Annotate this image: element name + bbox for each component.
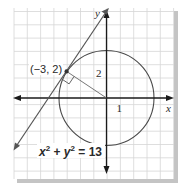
point-label: (−3, 2) bbox=[30, 63, 62, 75]
graph-svg: (−3, 2) 2 1 y x x2 + y2 = 13 bbox=[0, 0, 183, 187]
coordinate-plane-figure: (−3, 2) 2 1 y x x2 + y2 = 13 bbox=[0, 0, 183, 187]
y-axis-label: y bbox=[94, 7, 100, 19]
equation-rhs: = 13 bbox=[75, 145, 102, 159]
x-scale-label: 1 bbox=[117, 102, 123, 114]
y-scale-label: 2 bbox=[96, 67, 102, 79]
x-axis-label: x bbox=[165, 102, 171, 114]
tangent-point-marker bbox=[65, 69, 69, 73]
equation-plus: + bbox=[50, 145, 64, 159]
